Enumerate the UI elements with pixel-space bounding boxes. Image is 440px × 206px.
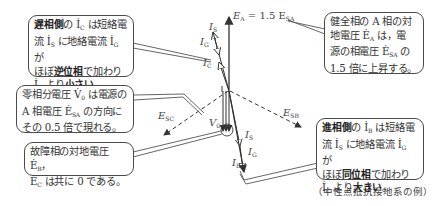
- label-EA: EA = 1.5 ESA: [233, 10, 294, 22]
- label-IC: IC: [203, 57, 212, 69]
- label-IB: IB: [232, 157, 240, 169]
- IG-upper-vector: [213, 32, 219, 55]
- callout-faulted-phase: 故障相の対地電圧 ĖB， ĖC は共に 0 である。: [24, 142, 134, 176]
- label-ESC: ESC: [158, 110, 174, 122]
- label-IG-lower: IG: [248, 146, 257, 158]
- IC-vector: [219, 62, 229, 91]
- label-IS-lower: IS: [245, 129, 253, 141]
- label-IS-upper: IS: [209, 21, 217, 33]
- label-ESB: ESB: [283, 107, 299, 119]
- callout-zero-sequence: 零相分電圧 V̇0 は電源の A 相電圧 ĖSA の方向に その 0.5 倍で現…: [16, 85, 134, 133]
- label-IG-upper: IG: [200, 36, 209, 48]
- callout-healthy-phase: 健全相の A 相の対 地電圧 ĖA は，電 源の相電圧 ĖSA の 1.5 倍に…: [324, 12, 424, 74]
- callout-lead-side: 進相側の İB は短絡電 流 İS に地絡電流 İG が ほぼ同位相で加わり İ…: [316, 118, 424, 180]
- callout-lag-side: 遅相側の İC は短絡電 流 İS に地絡電流 İG が ほぼ逆位相で加わり İ…: [28, 15, 134, 77]
- label-V0: V0: [209, 117, 220, 129]
